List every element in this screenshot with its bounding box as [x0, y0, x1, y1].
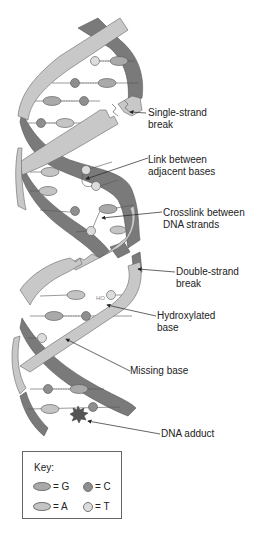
- adduct-icon: [70, 406, 88, 423]
- key-label: = G: [53, 481, 69, 492]
- circle-light-icon: [83, 502, 93, 512]
- key-item-a: = A: [33, 501, 68, 512]
- label-hydroxylated-base: Hydroxylated base: [157, 310, 215, 334]
- oval-dark-icon: [33, 482, 51, 491]
- label-double-strand-break: Double-strand break: [176, 266, 239, 290]
- key-label: = T: [95, 501, 110, 512]
- label-line: Crosslink between: [163, 207, 245, 219]
- label-crosslink: Crosslink between DNA strands: [163, 207, 245, 231]
- key-title: Key:: [34, 462, 54, 473]
- label-line: Hydroxylated: [157, 310, 215, 322]
- circle-dark-icon: [83, 482, 93, 492]
- key-item-t: = T: [83, 501, 110, 512]
- label-line: break: [148, 119, 207, 131]
- key-label: = A: [53, 501, 68, 512]
- oval-light-icon: [33, 502, 51, 511]
- label-line: DNA strands: [163, 219, 245, 231]
- label-line: DNA adduct: [161, 428, 214, 440]
- label-single-strand-break: Single-strand break: [148, 107, 207, 131]
- label-line: break: [176, 278, 239, 290]
- ho-mark: HO: [96, 295, 105, 301]
- key-item-c: = C: [83, 481, 111, 492]
- label-line: Double-strand: [176, 266, 239, 278]
- label-line: Missing base: [130, 365, 188, 377]
- label-line: Link between: [148, 154, 215, 166]
- label-line: adjacent bases: [148, 166, 215, 178]
- key-item-g: = G: [33, 481, 69, 492]
- label-link-adjacent-bases: Link between adjacent bases: [148, 154, 215, 178]
- label-missing-base: Missing base: [130, 365, 188, 377]
- label-line: Single-strand: [148, 107, 207, 119]
- label-dna-adduct: DNA adduct: [161, 428, 214, 440]
- key-label: = C: [95, 481, 111, 492]
- key-legend: Key: = G = C = A = T: [22, 451, 122, 519]
- label-line: base: [157, 322, 215, 334]
